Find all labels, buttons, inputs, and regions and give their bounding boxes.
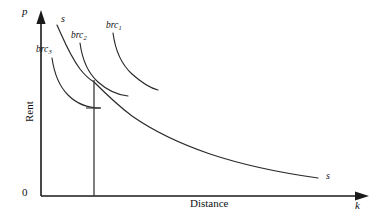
x-axis-title: Distance <box>190 198 228 209</box>
supply-curve-label-top: s <box>61 14 65 24</box>
bid-rent-curve-label-brc1: brc1 <box>106 21 122 31</box>
bid-rent-curve-brc3 <box>52 58 100 108</box>
bid-rent-curve-label-brc3: brc3 <box>36 45 52 55</box>
bid-rent-curve-brc2 <box>80 43 128 96</box>
origin-label: 0 <box>22 187 28 198</box>
y-axis-title: Rent <box>24 101 35 122</box>
supply-curve-label-right: s <box>326 171 330 181</box>
brc1-name: brc <box>106 20 118 30</box>
y-axis-variable-label: p <box>22 6 28 17</box>
brc3-subscript: 3 <box>48 48 52 55</box>
x-axis-variable-label: k <box>355 200 360 211</box>
brc1-subscript: 1 <box>118 24 122 31</box>
bid-rent-curve-label-brc2: brc2 <box>71 31 87 41</box>
brc2-name: brc <box>71 30 83 40</box>
brc2-subscript: 2 <box>83 34 87 41</box>
brc3-name: brc <box>36 44 48 54</box>
bid-rent-curve-brc1 <box>113 33 158 90</box>
bid-rent-figure: p k 0 Rent Distance s s brc3 brc2 brc1 <box>0 0 386 221</box>
y-axis-arrowhead <box>36 10 45 24</box>
chart-canvas <box>0 0 386 221</box>
supply-curve-s <box>57 25 318 178</box>
